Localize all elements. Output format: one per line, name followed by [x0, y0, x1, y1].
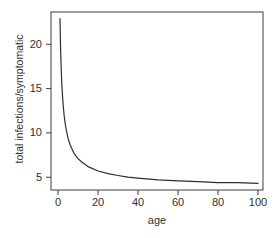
- y-axis-label: total infections/symptomatic: [13, 35, 25, 164]
- figure: 020406080100 5101520 age total infection…: [0, 0, 277, 238]
- x-tick-label: 0: [55, 196, 61, 208]
- x-tick-label: 100: [249, 196, 267, 208]
- chart: 020406080100 5101520 age total infection…: [0, 0, 277, 238]
- x-tick-label: 80: [212, 196, 224, 208]
- y-tick-label: 15: [30, 82, 42, 94]
- x-tick-label: 40: [132, 196, 144, 208]
- x-tick-label: 60: [172, 196, 184, 208]
- x-tick-label: 20: [92, 196, 104, 208]
- x-axis-label: age: [148, 214, 166, 226]
- y-tick-label: 5: [36, 171, 42, 183]
- y-tick-label: 20: [30, 38, 42, 50]
- y-tick-label: 10: [30, 126, 42, 138]
